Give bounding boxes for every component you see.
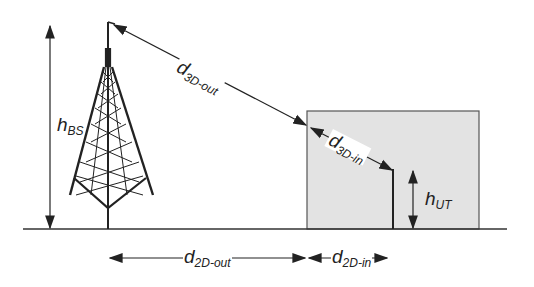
label-d-2d-in-main: d [332, 246, 343, 267]
label-d-2d-in-sub: 2D-in [343, 256, 372, 270]
label-h-bs-main: h [57, 114, 68, 135]
diagram-canvas [0, 0, 534, 287]
label-d-2d-out-sub: 2D-out [195, 256, 231, 270]
label-d-2d-out-main: d [184, 246, 195, 267]
label-h-bs: hBS [56, 115, 85, 134]
label-h-ut: hUT [425, 189, 452, 208]
label-h-ut-sub: UT [436, 198, 452, 212]
label-d-2d-out: d2D-out [183, 247, 232, 266]
label-h-bs-sub: BS [68, 124, 84, 138]
label-h-ut-main: h [425, 188, 436, 209]
label-d-2d-in: d2D-in [331, 247, 372, 266]
